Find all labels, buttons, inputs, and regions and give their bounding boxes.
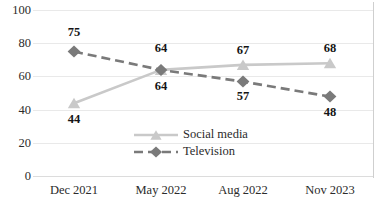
marker-television-0 — [68, 46, 81, 58]
marker-television-2 — [237, 76, 250, 88]
x-axis: Dec 2021 May 2022 Aug 2022 Nov 2023 — [33, 181, 373, 201]
x-tick-label-1: May 2022 — [135, 184, 186, 197]
marker-social-media-0 — [68, 98, 80, 109]
series-layer — [0, 0, 386, 202]
data-label-social-media-0: 44 — [68, 113, 81, 126]
legend-key-television — [133, 145, 179, 159]
data-label-television-1: 64 — [155, 42, 168, 55]
data-label-television-0: 75 — [68, 26, 81, 39]
chart-legend: Social media Television — [133, 126, 253, 160]
line-chart: 100 80 60 40 20 0 75 64 57 48 44 64 67 6… — [0, 0, 386, 202]
data-label-television-3: 48 — [324, 106, 337, 119]
marker-television-3 — [324, 91, 337, 103]
legend-item-television[interactable]: Television — [133, 143, 253, 160]
legend-key-social-media — [133, 128, 179, 142]
data-label-social-media-2: 67 — [237, 44, 250, 57]
legend-label-television: Television — [179, 145, 235, 158]
legend-label-social-media: Social media — [179, 128, 248, 141]
series-line-social-media — [74, 63, 330, 103]
data-label-social-media-1: 64 — [155, 80, 168, 93]
x-tick-label-0: Dec 2021 — [50, 184, 98, 197]
x-tick-label-3: Nov 2023 — [305, 184, 355, 197]
legend-item-social-media[interactable]: Social media — [133, 126, 253, 143]
data-label-social-media-3: 68 — [324, 42, 337, 55]
x-tick-label-2: Aug 2022 — [218, 184, 268, 197]
data-label-television-2: 57 — [237, 90, 250, 103]
